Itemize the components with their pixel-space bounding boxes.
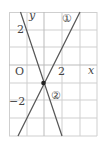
line-1-label: ① bbox=[62, 12, 72, 25]
x-axis-label: x bbox=[88, 64, 95, 77]
y-tick-2: 2 bbox=[17, 23, 24, 36]
intersection-point bbox=[41, 81, 46, 86]
coordinate-plane: y x O 2 2 −2 ① ② bbox=[0, 0, 106, 147]
line-2-label: ② bbox=[51, 89, 61, 102]
y-axis-label: y bbox=[28, 9, 36, 22]
y-tick-neg2: −2 bbox=[9, 95, 25, 108]
x-tick-2: 2 bbox=[58, 65, 65, 78]
origin-label: O bbox=[15, 65, 24, 78]
